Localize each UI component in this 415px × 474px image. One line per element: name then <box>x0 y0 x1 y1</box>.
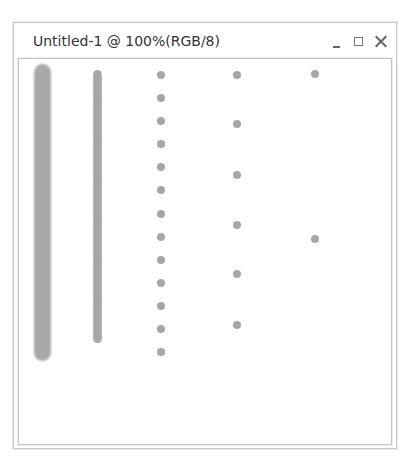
brush-dot <box>157 186 165 194</box>
close-icon[interactable] <box>375 35 388 48</box>
brush-dot <box>157 256 165 264</box>
window-title: Untitled-1 @ 100%(RGB/8) <box>33 33 220 49</box>
brush-dot <box>157 348 165 356</box>
brush-dot <box>157 302 165 310</box>
brush-dot <box>157 325 165 333</box>
drawing-canvas[interactable] <box>18 58 392 445</box>
maximize-icon[interactable] <box>354 36 366 48</box>
title-bar[interactable]: Untitled-1 @ 100%(RGB/8) <box>14 23 396 57</box>
brush-stroke <box>34 64 51 361</box>
brush-dot <box>233 221 241 229</box>
brush-dot <box>311 70 319 78</box>
brush-dot <box>157 117 165 125</box>
brush-dot <box>233 270 241 278</box>
brush-dot <box>233 171 241 179</box>
brush-dot <box>311 235 319 243</box>
brush-dot <box>157 233 165 241</box>
brush-dot <box>157 94 165 102</box>
brush-stroke-beaded <box>93 70 102 343</box>
brush-dot <box>233 321 241 329</box>
brush-dot <box>233 71 241 79</box>
brush-dot <box>157 279 165 287</box>
brush-dot <box>157 163 165 171</box>
brush-dot <box>157 71 165 79</box>
brush-dot <box>157 210 165 218</box>
brush-dot <box>233 120 241 128</box>
minimize-icon[interactable] <box>332 36 344 48</box>
brush-dot <box>157 140 165 148</box>
document-window: Untitled-1 @ 100%(RGB/8) <box>13 22 397 449</box>
